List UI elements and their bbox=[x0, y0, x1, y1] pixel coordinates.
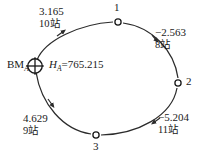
direction-arrows-group bbox=[48, 31, 160, 123]
node-marker-3 bbox=[93, 132, 99, 138]
segment-stations-bm-to-1: 10站 bbox=[39, 18, 64, 29]
segment-value-3-to-bm: 4.629 bbox=[23, 113, 48, 125]
benchmark-label: BMA bbox=[7, 59, 29, 73]
benchmark-height-label: HA=765.215 bbox=[49, 59, 104, 73]
benchmark-subscript: A bbox=[24, 64, 29, 73]
segment-stations-2-to-3: 11站 bbox=[158, 124, 189, 135]
segment-stations-1-to-2: 8站 bbox=[155, 39, 186, 50]
segment-label-2-to-3: −5.204 11站 bbox=[158, 112, 189, 135]
segment-label-bm-to-1: 3.165 10站 bbox=[39, 6, 64, 29]
node-label-1: 1 bbox=[114, 2, 120, 14]
segment-label-1-to-2: −2.563 8站 bbox=[155, 27, 186, 50]
leveling-loop-diagram: BMA HA=765.215 1 2 3 3.165 10站 −2.563 8站… bbox=[0, 0, 204, 158]
segment-label-3-to-bm: 4.629 9站 bbox=[23, 113, 48, 136]
height-symbol: H bbox=[49, 58, 57, 70]
benchmark-name: BM bbox=[7, 58, 24, 70]
segment-stations-3-to-bm: 9站 bbox=[23, 125, 48, 136]
segment-value-1-to-2: −2.563 bbox=[155, 27, 186, 39]
node-label-3: 3 bbox=[93, 141, 99, 153]
node-marker-1 bbox=[115, 19, 121, 25]
height-value: =765.215 bbox=[62, 58, 104, 70]
node-marker-2 bbox=[175, 80, 181, 86]
segment-value-2-to-3: −5.204 bbox=[158, 112, 189, 124]
node-label-2: 2 bbox=[186, 76, 192, 88]
segment-value-bm-to-1: 3.165 bbox=[39, 6, 64, 18]
